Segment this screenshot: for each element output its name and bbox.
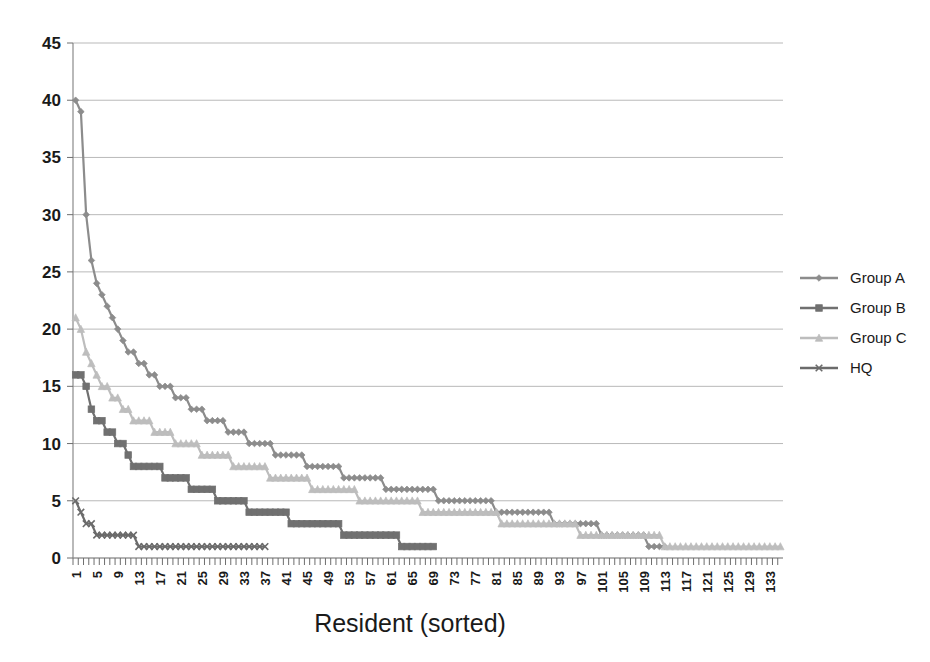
x-tick-label-85: 85 bbox=[510, 571, 525, 585]
data-point-marker-diamond bbox=[488, 497, 495, 504]
y-tick-label-20: 20 bbox=[42, 320, 61, 339]
x-tick-label-33: 33 bbox=[237, 571, 252, 585]
data-point-marker-square bbox=[393, 532, 400, 539]
x-axis-title: Resident (sorted) bbox=[314, 609, 506, 637]
y-tick-label-30: 30 bbox=[42, 206, 61, 225]
data-point-marker-diamond bbox=[183, 394, 190, 401]
data-point-marker-diamond bbox=[88, 257, 95, 264]
data-point-marker-diamond bbox=[335, 463, 342, 470]
y-tick-label-10: 10 bbox=[42, 435, 61, 454]
data-point-marker-diamond bbox=[151, 372, 158, 379]
data-point-marker-diamond bbox=[130, 349, 137, 356]
legend-label-group-b: Group B bbox=[850, 299, 906, 316]
x-tick-label-29: 29 bbox=[216, 571, 231, 585]
x-tick-label-109: 109 bbox=[637, 571, 652, 593]
data-point-marker-triangle bbox=[93, 371, 100, 378]
x-tick-label-53: 53 bbox=[342, 571, 357, 585]
y-axis-tick-labels: 051015202530354045 bbox=[42, 34, 73, 568]
data-point-marker-diamond bbox=[93, 280, 100, 287]
data-point-marker-diamond bbox=[220, 417, 227, 424]
x-axis-tickmarks bbox=[73, 558, 778, 565]
x-tick-label-25: 25 bbox=[195, 571, 210, 585]
data-point-marker-diamond bbox=[199, 406, 206, 413]
data-point-marker-diamond bbox=[109, 314, 116, 321]
data-point-marker-square bbox=[183, 475, 190, 482]
x-tick-label-45: 45 bbox=[300, 571, 315, 585]
x-tick-label-93: 93 bbox=[552, 571, 567, 585]
data-point-marker-square bbox=[209, 486, 216, 493]
data-point-marker-square bbox=[283, 509, 290, 516]
legend-label-group-a: Group A bbox=[850, 269, 905, 286]
data-point-marker-square bbox=[335, 520, 342, 527]
data-point-marker-diamond bbox=[114, 326, 121, 333]
x-tick-label-5: 5 bbox=[90, 571, 105, 578]
x-tick-label-101: 101 bbox=[595, 571, 610, 593]
x-tick-label-1: 1 bbox=[69, 571, 84, 578]
x-tick-label-61: 61 bbox=[384, 571, 399, 585]
data-point-marker-diamond bbox=[593, 520, 600, 527]
data-point-marker-diamond bbox=[267, 440, 274, 447]
data-point-marker-diamond bbox=[377, 475, 384, 482]
x-tick-label-89: 89 bbox=[531, 571, 546, 585]
data-point-marker-diamond bbox=[430, 486, 437, 493]
series-markers bbox=[72, 314, 784, 550]
data-point-marker-diamond bbox=[120, 337, 127, 344]
data-point-marker-square bbox=[430, 543, 437, 550]
y-tick-label-25: 25 bbox=[42, 263, 61, 282]
x-tick-label-129: 129 bbox=[742, 571, 757, 593]
x-tick-label-65: 65 bbox=[405, 571, 420, 585]
x-tick-label-69: 69 bbox=[426, 571, 441, 585]
data-point-marker-square bbox=[156, 463, 163, 470]
data-point-marker-triangle bbox=[88, 360, 95, 367]
x-tick-label-77: 77 bbox=[468, 571, 483, 585]
data-point-marker-diamond bbox=[99, 291, 106, 298]
x-axis-tick-labels: 1591317212529333741454953576165697377818… bbox=[69, 571, 778, 593]
data-point-marker-diamond bbox=[241, 429, 248, 436]
data-point-marker-square bbox=[88, 406, 95, 413]
series-markers bbox=[72, 372, 436, 550]
data-point-marker-diamond bbox=[104, 303, 111, 310]
legend-label-group-c: Group C bbox=[850, 329, 907, 346]
x-tick-label-113: 113 bbox=[658, 571, 673, 592]
y-tick-label-0: 0 bbox=[52, 549, 61, 568]
data-point-marker-square bbox=[120, 440, 127, 447]
data-point-marker-diamond bbox=[298, 452, 305, 459]
x-tick-label-117: 117 bbox=[679, 571, 694, 592]
series-group-b bbox=[72, 372, 436, 550]
chart-legend: Group AGroup BGroup CHQ bbox=[800, 269, 907, 376]
y-tick-label-5: 5 bbox=[52, 492, 61, 511]
x-tick-label-97: 97 bbox=[574, 571, 589, 585]
x-tick-label-105: 105 bbox=[616, 571, 631, 593]
data-point-marker-square bbox=[109, 429, 116, 436]
data-point-marker-square bbox=[99, 417, 106, 424]
series-markers bbox=[72, 97, 668, 550]
data-series bbox=[72, 97, 784, 550]
x-tick-label-125: 125 bbox=[721, 571, 736, 593]
x-tick-label-133: 133 bbox=[763, 571, 778, 593]
series-group-a bbox=[72, 97, 668, 550]
series-markers bbox=[72, 497, 268, 549]
line-chart: 051015202530354045 159131721252933374145… bbox=[0, 0, 930, 662]
series-hq bbox=[72, 497, 268, 549]
series-line bbox=[76, 375, 434, 547]
x-tick-label-21: 21 bbox=[174, 571, 189, 585]
data-point-marker-diamond bbox=[83, 211, 90, 218]
data-point-marker-diamond bbox=[816, 275, 823, 282]
y-tick-label-40: 40 bbox=[42, 91, 61, 110]
x-tick-label-13: 13 bbox=[132, 571, 147, 585]
data-point-marker-triangle bbox=[82, 348, 89, 355]
x-tick-label-81: 81 bbox=[489, 571, 504, 585]
chart-container: 051015202530354045 159131721252933374145… bbox=[0, 0, 930, 662]
x-tick-label-37: 37 bbox=[258, 571, 273, 585]
data-point-marker-square bbox=[241, 497, 248, 504]
data-point-marker-square bbox=[78, 372, 85, 379]
x-tick-label-73: 73 bbox=[447, 571, 462, 585]
series-group-c bbox=[72, 314, 784, 550]
data-point-marker-diamond bbox=[141, 360, 148, 367]
series-line bbox=[76, 501, 265, 547]
x-tick-label-41: 41 bbox=[279, 571, 294, 585]
y-tick-label-45: 45 bbox=[42, 34, 61, 53]
x-tick-label-57: 57 bbox=[363, 571, 378, 585]
y-tick-label-35: 35 bbox=[42, 148, 61, 167]
data-point-marker-diamond bbox=[78, 108, 85, 115]
